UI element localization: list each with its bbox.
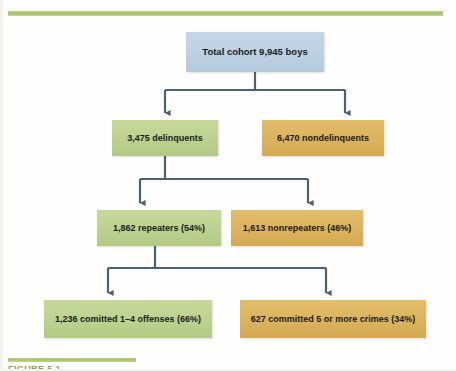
node-high-offenders[interactable]: 627 committed 5 or more crimes (34%) bbox=[240, 300, 426, 338]
node-repeaters[interactable]: 1,862 repeaters (54%) bbox=[97, 210, 221, 246]
node-total-cohort-label: Total cohort 9,945 boys bbox=[202, 47, 307, 58]
node-high-offenders-label: 627 committed 5 or more crimes (34%) bbox=[251, 314, 416, 324]
scan-edge-left bbox=[0, 0, 3, 371]
node-delinquents[interactable]: 3,475 delinquents bbox=[112, 120, 218, 156]
node-nondelinquents-label: 6,470 nondelinquents bbox=[277, 133, 369, 143]
node-delinquents-label: 3,475 delinquents bbox=[127, 133, 203, 143]
node-total-cohort[interactable]: Total cohort 9,945 boys bbox=[186, 32, 324, 72]
bottom-accent-rule bbox=[8, 358, 136, 362]
flowchart-canvas: Total cohort 9,945 boys 3,475 delinquent… bbox=[0, 16, 456, 352]
node-low-offenders-label: 1,236 comitted 1–4 offenses (66%) bbox=[55, 314, 201, 324]
node-low-offenders[interactable]: 1,236 comitted 1–4 offenses (66%) bbox=[44, 300, 212, 338]
node-nonrepeaters[interactable]: 1,613 nonrepeaters (46%) bbox=[231, 210, 363, 246]
node-nonrepeaters-label: 1,613 nonrepeaters (46%) bbox=[243, 223, 352, 233]
figure-container: Total cohort 9,945 boys 3,475 delinquent… bbox=[0, 0, 456, 371]
node-nondelinquents[interactable]: 6,470 nondelinquents bbox=[262, 120, 384, 156]
node-repeaters-label: 1,862 repeaters (54%) bbox=[113, 223, 205, 233]
